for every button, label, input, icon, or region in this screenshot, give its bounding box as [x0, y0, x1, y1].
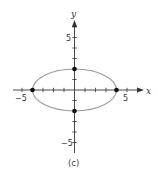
vertex-point [30, 88, 35, 93]
x-axis-label: x [146, 86, 151, 96]
x-axis-arrow-icon [137, 87, 144, 92]
figure-caption: (c) [68, 158, 79, 168]
x-tick-label-neg5: −5 [15, 94, 27, 103]
y-tick-label-pos5: 5 [66, 34, 71, 43]
y-tick-label-neg5: −5 [61, 139, 73, 148]
vertex-point [72, 109, 77, 114]
y-axis-arrow-icon [72, 20, 77, 27]
axis-ticks [22, 27, 138, 143]
y-axis-label: y [70, 9, 77, 19]
vertex-point [114, 88, 119, 93]
vertex-point [72, 67, 77, 72]
x-tick-label-pos5: 5 [123, 94, 128, 103]
ellipse-graph: x y −5 5 5 −5 (c) [0, 0, 158, 178]
